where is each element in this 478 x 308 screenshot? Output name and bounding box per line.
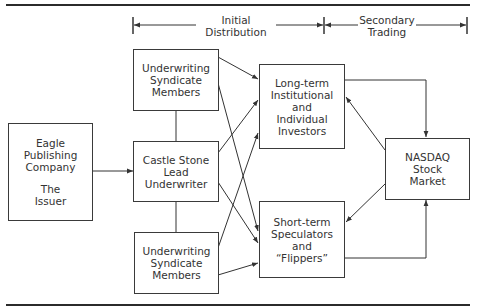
node-long-term-investors: Long-term Institutional and Individual I… — [259, 64, 345, 149]
node-text: Company — [26, 161, 76, 173]
phase-label-line1: Initial — [196, 14, 276, 26]
node-subtext: The — [41, 183, 61, 195]
node-text: Members — [152, 269, 201, 281]
node-text: Investors — [278, 125, 326, 137]
phase-label-line1: Secondary — [358, 14, 416, 26]
node-text: Publishing — [24, 149, 78, 161]
node-text: and — [292, 101, 312, 113]
node-text: Underwriting — [143, 245, 211, 257]
node-text: Castle Stone — [143, 154, 209, 166]
node-text: Market — [409, 175, 445, 187]
node-lead-underwriter: Castle Stone Lead Underwriter — [133, 141, 219, 202]
node-text: Underwriting — [142, 62, 210, 74]
node-syndicate-bottom: Underwriting Syndicate Members — [134, 232, 219, 294]
node-text: Lead — [163, 166, 188, 178]
node-nasdaq: NASDAQ Stock Market — [385, 138, 470, 200]
node-issuer: Eagle Publishing Company The Issuer — [8, 123, 93, 221]
node-text: Individual — [276, 113, 327, 125]
phase-label-line2: Trading — [358, 26, 416, 38]
node-subtext: Issuer — [35, 195, 66, 207]
node-text: “Flippers” — [276, 252, 328, 264]
node-text: and — [292, 240, 312, 252]
phase-initial-distribution: Initial Distribution — [196, 14, 276, 38]
node-text: Institutional — [271, 89, 334, 101]
node-text: Syndicate — [150, 74, 202, 86]
node-text: Stock — [413, 163, 442, 175]
phase-secondary-trading: Secondary Trading — [358, 14, 416, 38]
node-text: Members — [152, 86, 201, 98]
node-short-term-speculators: Short-term Speculators and “Flippers” — [259, 201, 345, 278]
node-text: Short-term — [274, 216, 331, 228]
node-text: Syndicate — [151, 257, 203, 269]
phase-label-line2: Distribution — [196, 26, 276, 38]
node-text: Underwriter — [145, 178, 208, 190]
node-text: NASDAQ — [405, 151, 450, 163]
node-syndicate-top: Underwriting Syndicate Members — [133, 49, 219, 111]
node-text: Long-term — [275, 77, 329, 89]
node-text: Speculators — [271, 228, 333, 240]
node-text: Eagle — [36, 137, 65, 149]
